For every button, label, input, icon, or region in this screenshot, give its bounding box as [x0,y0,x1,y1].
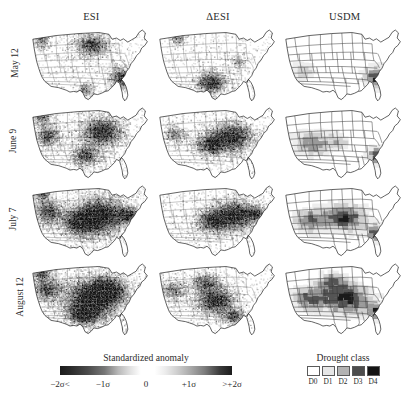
anomaly-tick-4: >+2σ [222,377,242,391]
map-panel-june9-desi[interactable] [155,104,282,182]
row-label-text: July 7 [8,208,18,231]
drought-swatch-label-d1: D1 [322,377,335,387]
drought-swatch-label-d3: D3 [352,377,365,387]
row-label-text: August 12 [15,277,25,316]
anomaly-tick-3: +1σ [182,377,196,391]
row-label-august12: August 12 [0,292,26,302]
column-header-desi: ΔESI [155,8,282,26]
drought-swatch-d0 [307,366,320,376]
anomaly-tick-2: 0 [144,377,149,391]
map-row-august12 [28,260,408,338]
drought-swatch-d2 [337,366,350,376]
column-header-esi: ESI [28,8,155,26]
map-row-may12 [28,26,408,104]
column-header-usdm: USDM [281,8,408,26]
map-panel-august12-esi[interactable] [28,260,155,338]
map-grid [28,26,408,338]
map-panel-july7-usdm[interactable] [281,182,408,260]
map-panel-august12-usdm[interactable] [281,260,408,338]
map-row-june9 [28,104,408,182]
anomaly-colorbar-ticks: −2σ<−1σ0+1σ>+2σ [46,377,246,391]
row-label-text: June 9 [8,129,18,154]
map-panel-july7-desi[interactable] [155,182,282,260]
drought-figure: ESI ΔESI USDM May 12 June 9 July 7 Augus… [0,0,415,410]
anomaly-colorbar [60,366,232,375]
map-panel-may12-desi[interactable] [155,26,282,104]
map-panel-may12-esi[interactable] [28,26,155,104]
drought-class-swatches [283,366,403,376]
drought-swatch-d3 [352,366,365,376]
column-headers: ESI ΔESI USDM [28,8,408,26]
map-panel-august12-desi[interactable] [155,260,282,338]
map-panel-june9-esi[interactable] [28,104,155,182]
anomaly-tick-1: −1σ [96,377,110,391]
drought-swatch-d4 [367,366,380,376]
row-label-may12: May 12 [0,58,26,68]
drought-swatch-label-d0: D0 [307,377,320,387]
anomaly-tick-0: −2σ< [50,377,70,391]
drought-legend-title: Drought class [283,352,403,363]
row-label-text: May 12 [10,48,20,77]
map-row-july7 [28,182,408,260]
drought-swatch-d1 [322,366,335,376]
drought-swatch-label-d4: D4 [367,377,380,387]
drought-class-labels: D0D1D2D3D4 [283,377,403,387]
drought-class-legend: Drought class D0D1D2D3D4 [283,352,403,387]
map-panel-june9-usdm[interactable] [281,104,408,182]
map-panel-may12-usdm[interactable] [281,26,408,104]
anomaly-legend-title: Standardized anomaly [46,352,246,363]
row-label-june9: June 9 [0,136,26,146]
row-label-july7: July 7 [0,214,26,224]
drought-swatch-label-d2: D2 [337,377,350,387]
map-panel-july7-esi[interactable] [28,182,155,260]
standardized-anomaly-legend: Standardized anomaly −2σ<−1σ0+1σ>+2σ [46,352,246,391]
